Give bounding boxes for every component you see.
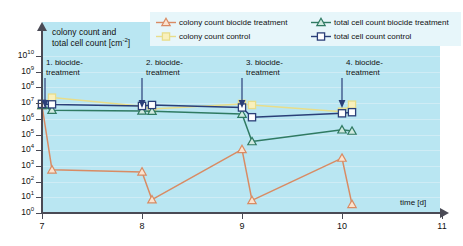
annotation-t3: 3. biocide-treatment bbox=[246, 58, 283, 77]
chart-figure: 1001011021031041051061071081091010 78910… bbox=[0, 0, 463, 246]
legend-item-1[interactable]: total cell count biocide treatment bbox=[311, 17, 449, 27]
x-tick bbox=[142, 214, 143, 219]
legend-label: colony count biocide treatment bbox=[179, 18, 288, 27]
annotation-line2: treatment bbox=[46, 68, 83, 78]
legend-square-icon bbox=[156, 31, 176, 41]
legend-triangle-icon bbox=[311, 17, 331, 27]
x-tick bbox=[442, 214, 443, 219]
y-tick bbox=[36, 119, 42, 120]
y-tick bbox=[36, 197, 42, 198]
annotation-line1: 3. biocide- bbox=[246, 58, 283, 68]
y-tick-label: 104 bbox=[0, 145, 34, 154]
annotation-t4: 4. biocide-treatment bbox=[346, 58, 383, 77]
x-tick bbox=[42, 214, 43, 219]
annotation-line1: 4. biocide- bbox=[346, 58, 383, 68]
annotation-arrow-t2 bbox=[136, 78, 148, 110]
legend-label: total cell count control bbox=[334, 32, 411, 41]
annotation-line2: treatment bbox=[246, 68, 283, 78]
x-tick-label: 7 bbox=[32, 221, 52, 231]
series-colony-count-biocide-treatment bbox=[38, 101, 356, 207]
y-axis-title-line1: colony count and bbox=[52, 27, 116, 37]
y-tick-label: 100 bbox=[0, 208, 34, 217]
x-tick bbox=[242, 214, 243, 219]
y-tick-label: 102 bbox=[0, 177, 34, 186]
x-tick bbox=[342, 214, 343, 219]
y-axis-title-line2: total cell count [cm bbox=[52, 38, 122, 48]
legend-item-0[interactable]: colony count biocide treatment bbox=[156, 17, 288, 27]
annotation-line2: treatment bbox=[146, 68, 183, 78]
annotation-t1: 1. biocide-treatment bbox=[46, 58, 83, 77]
annotation-arrow-t4 bbox=[336, 78, 348, 110]
x-tick-label: 9 bbox=[232, 221, 252, 231]
series-total-cell-count-biocide-treatment bbox=[38, 101, 356, 145]
y-tick bbox=[36, 166, 42, 167]
y-tick bbox=[36, 135, 42, 136]
y-tick-label: 107 bbox=[0, 98, 34, 107]
y-tick bbox=[36, 56, 42, 57]
y-tick-label: 108 bbox=[0, 82, 34, 91]
y-tick-label: 1010 bbox=[0, 51, 34, 60]
annotation-arrow-t3 bbox=[236, 78, 248, 110]
annotation-arrow-t1 bbox=[39, 78, 51, 110]
y-axis-title-line2-end: ] bbox=[128, 38, 130, 48]
y-tick bbox=[36, 150, 42, 151]
x-tick-label: 10 bbox=[332, 221, 352, 231]
legend-triangle-icon bbox=[156, 17, 176, 27]
legend-label: total cell count biocide treatment bbox=[334, 18, 449, 27]
y-tick-label: 103 bbox=[0, 161, 34, 170]
y-tick bbox=[36, 72, 42, 73]
y-tick-label: 105 bbox=[0, 130, 34, 139]
y-tick-label: 101 bbox=[0, 192, 34, 201]
y-tick-label: 106 bbox=[0, 114, 34, 123]
annotation-t2: 2. biocide-treatment bbox=[146, 58, 183, 77]
annotation-line2: treatment bbox=[346, 68, 383, 78]
x-axis-title: time [d] bbox=[400, 198, 426, 207]
annotation-line1: 1. biocide- bbox=[46, 58, 83, 68]
y-tick-label: 109 bbox=[0, 67, 34, 76]
y-axis-title: colony count and total cell count [cm-2] bbox=[52, 27, 130, 49]
legend-item-3[interactable]: total cell count control bbox=[311, 31, 411, 41]
legend-label: colony count control bbox=[179, 32, 250, 41]
y-axis-line bbox=[41, 30, 43, 214]
y-tick bbox=[36, 182, 42, 183]
x-tick-label: 8 bbox=[132, 221, 152, 231]
annotation-line1: 2. biocide- bbox=[146, 58, 183, 68]
legend-square-icon bbox=[311, 31, 331, 41]
x-tick-label: 11 bbox=[432, 221, 452, 231]
y-axis-arrow bbox=[37, 22, 47, 31]
legend-item-2[interactable]: colony count control bbox=[156, 31, 250, 41]
